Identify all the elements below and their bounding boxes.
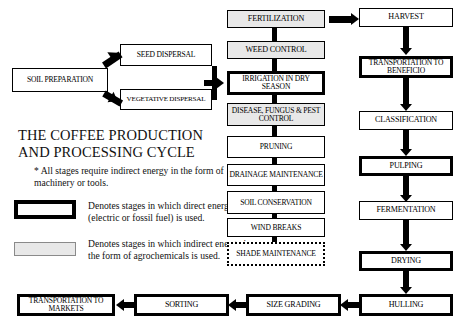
arrowhead-classification-to-pulping (400, 149, 412, 156)
arrowhead-fermentation-to-drying (400, 244, 412, 251)
connector-weed-to-irrigation (272, 59, 277, 71)
node-disease-fungus-pest-control[interactable]: DISEASE, FUNGUS & PEST CONTROL (227, 103, 325, 126)
arrowhead-drying-to-hulling (400, 287, 412, 294)
node-drying[interactable]: DRYING (359, 251, 453, 271)
node-sorting[interactable]: SORTING (134, 294, 229, 316)
node-fermentation[interactable]: FERMENTATION (359, 201, 453, 220)
title-line-1: THE COFFEE PRODUCTION (18, 127, 228, 144)
connector-fertilization-to-weed (272, 28, 277, 41)
arrowhead-to-harvest (351, 13, 359, 25)
page-title: THE COFFEE PRODUCTION AND PROCESSING CYC… (18, 127, 228, 161)
node-harvest[interactable]: HARVEST (359, 8, 453, 27)
arrowhead-dispersal-to-irrigation (216, 77, 224, 89)
connector-irrigation-to-disease (272, 95, 277, 103)
node-vegetative-dispersal[interactable]: VEGETATIVE DISPERSAL (120, 89, 212, 110)
connector-harvest-to-transport (403, 27, 409, 50)
connector-fermentation-to-drying (403, 220, 409, 247)
arrowhead-size-grading-to-sorting (228, 299, 236, 311)
node-transportation-to-markets[interactable]: TRANSPORTATION TO MARKETS (17, 294, 115, 316)
node-irrigation-dry-season[interactable]: IRRIGATION IN DRY SEASON (227, 71, 325, 95)
node-soil-preparation[interactable]: SOIL PREPARATION (12, 68, 108, 92)
arrowhead-sorting-to-transport-markets (116, 299, 124, 311)
legend-swatch-indirect-energy (14, 242, 76, 256)
node-shade-maintenance[interactable]: SHADE MAINTENANCE (227, 242, 325, 266)
node-pulping[interactable]: PULPING (359, 156, 453, 176)
node-weed-control[interactable]: WEED CONTROL (227, 41, 325, 59)
footnote-text: * All stages require indirect energy in … (34, 165, 224, 189)
node-drainage-maintenance[interactable]: DRAINAGE MAINTENANCE (227, 164, 325, 186)
node-fertilization[interactable]: FERTILIZATION (227, 10, 325, 28)
node-seed-dispersal[interactable]: SEED DISPERSAL (120, 44, 212, 66)
connector-transport-to-classification (403, 78, 409, 107)
connector-hulling-to-size-grading (346, 302, 361, 308)
legend-swatch-direct-energy (14, 200, 76, 219)
connector-disease-to-pruning (272, 126, 277, 136)
arrowhead-hulling-to-size-grading (340, 299, 348, 311)
title-line-2: AND PROCESSING CYCLE (18, 144, 228, 161)
connector-sorting-to-transport-markets (122, 302, 136, 308)
node-soil-conservation[interactable]: SOIL CONSERVATION (227, 191, 325, 214)
node-transportation-to-beneficio[interactable]: TRANSPORTATION TO BENEFICIO (359, 56, 453, 78)
node-size-grading[interactable]: SIZE GRADING (246, 294, 341, 316)
coffee-production-flowchart: THE COFFEE PRODUCTION AND PROCESSING CYC… (0, 0, 464, 329)
arrowhead-harvest-to-transport (400, 48, 412, 55)
arrowhead-transport-to-classification (400, 104, 412, 111)
node-wind-breaks[interactable]: WIND BREAKS (227, 218, 325, 237)
node-pruning[interactable]: PRUNING (227, 136, 325, 158)
node-hulling[interactable]: HULLING (359, 294, 453, 316)
connector-size-grading-to-sorting (234, 302, 248, 308)
node-classification[interactable]: CLASSIFICATION (359, 111, 453, 130)
connector-fertilization-to-harvest (329, 16, 353, 23)
